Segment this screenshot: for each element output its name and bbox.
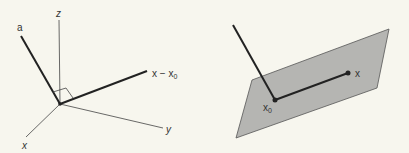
z-axis bbox=[59, 20, 60, 104]
plane bbox=[236, 29, 389, 138]
diagram: a z y x x − x0 x x0 bbox=[0, 0, 409, 153]
label-z: z bbox=[55, 8, 61, 19]
point-x0 bbox=[273, 98, 278, 103]
origin-point bbox=[58, 102, 62, 106]
label-x: x bbox=[355, 68, 360, 79]
point-x bbox=[346, 71, 351, 76]
label-x-minus-x0: x − x0 bbox=[152, 68, 177, 80]
label-y: y bbox=[165, 124, 172, 135]
x-axis bbox=[26, 104, 60, 137]
vector-x-minus-x0 bbox=[60, 71, 147, 104]
vector-a bbox=[21, 36, 60, 104]
left-figure: a z y x x − x0 bbox=[17, 8, 177, 151]
vector-diagram: a z y x x − x0 x x0 bbox=[0, 0, 409, 153]
right-figure: x x0 bbox=[233, 25, 389, 138]
label-a: a bbox=[17, 22, 23, 33]
label-x-axis: x bbox=[21, 140, 28, 151]
y-axis bbox=[60, 104, 163, 128]
